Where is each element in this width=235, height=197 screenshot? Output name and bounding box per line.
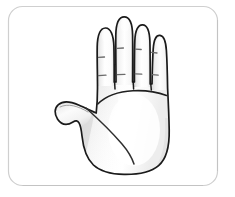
ring-fingertip-highlight <box>139 27 147 39</box>
knuckle-dash-pinky-lower <box>152 75 158 76</box>
middle-fingertip-highlight <box>121 19 130 32</box>
knuckle-dash-pinky-upper <box>152 52 157 53</box>
separator-ring-pinky <box>151 84 152 90</box>
illustration-canvas: Open Hand Line drawing of an open right … <box>0 0 235 197</box>
hand-illustration <box>0 0 235 197</box>
pinky-fingertip-highlight <box>156 38 163 49</box>
index-fingertip-highlight <box>102 30 110 42</box>
hand-figure <box>55 15 169 178</box>
